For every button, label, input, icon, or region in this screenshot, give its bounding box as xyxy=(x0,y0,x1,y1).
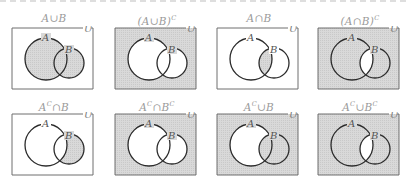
set-b-label: B xyxy=(167,44,175,55)
set-a-label: A xyxy=(347,118,355,129)
venn-svg: U A B xyxy=(4,112,104,182)
venn-svg: U A B xyxy=(107,112,207,182)
shaded-regions xyxy=(318,114,399,175)
set-a-label: A xyxy=(246,32,254,43)
venn-panel: (A∪B)C U A xyxy=(107,12,207,98)
venn-svg: U A B xyxy=(310,112,407,182)
set-b-label: B xyxy=(370,130,378,141)
panel-caption: (A∩B)C xyxy=(310,12,407,27)
cropped-header-text xyxy=(0,0,407,3)
set-b-label: B xyxy=(167,130,175,141)
set-a-label: A xyxy=(246,118,254,129)
shaded-regions xyxy=(318,28,399,89)
universe-label: U xyxy=(390,112,399,120)
panel-caption: A∩B xyxy=(209,12,309,24)
set-a-label: A xyxy=(347,32,355,43)
set-b-label: B xyxy=(64,130,72,141)
universe-label: U xyxy=(187,112,196,120)
universe-label: U xyxy=(289,112,298,120)
panel-caption: AC∪B xyxy=(209,98,309,113)
venn-panel: A∪B U A B xyxy=(4,12,104,98)
venn-panel: AC∪BC U A B xyxy=(310,98,407,182)
panel-caption: AC∪BC xyxy=(310,98,407,113)
shaded-regions xyxy=(115,114,196,175)
panel-caption: A∪B xyxy=(4,12,104,24)
venn-panel: (A∩B)C U A xyxy=(310,12,407,98)
venn-svg: U A B xyxy=(209,26,309,98)
universe-label: U xyxy=(84,26,93,34)
set-b-label: B xyxy=(269,130,277,141)
panel-caption: AC∩BC xyxy=(107,98,207,113)
panel-caption: AC∩B xyxy=(4,98,104,113)
set-a-label: A xyxy=(41,32,49,43)
universe-label: U xyxy=(187,26,196,34)
universe-box xyxy=(217,28,298,89)
set-b-label: B xyxy=(64,44,72,55)
universe-label: U xyxy=(289,26,298,34)
set-b-label: B xyxy=(269,44,277,55)
panel-caption: (A∪B)C xyxy=(107,12,207,27)
shaded-regions xyxy=(115,28,196,89)
venn-panel: AC∩BC U A B xyxy=(107,98,207,182)
universe-label: U xyxy=(84,112,93,120)
set-a-label: A xyxy=(41,118,49,129)
shaded-regions xyxy=(217,114,298,175)
venn-panel: AC∩B U A B xyxy=(4,98,104,182)
venn-panel: AC∪B U A B xyxy=(209,98,309,182)
venn-svg: U A B xyxy=(107,26,207,98)
set-a-label: A xyxy=(144,118,152,129)
set-a-label: A xyxy=(144,32,152,43)
venn-panel: A∩B U A B xyxy=(209,12,309,98)
venn-svg: U A B xyxy=(4,26,104,98)
universe-label: U xyxy=(390,26,399,34)
venn-svg: U A B xyxy=(209,112,309,182)
set-b-label: B xyxy=(370,44,378,55)
venn-svg: U A B xyxy=(310,26,407,98)
